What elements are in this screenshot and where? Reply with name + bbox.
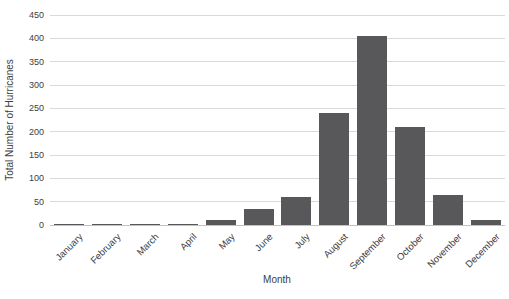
bar-december	[471, 220, 501, 225]
gridline-350	[50, 61, 505, 62]
x-axis-label-april: April	[177, 231, 198, 252]
x-axis-label-june: June	[252, 231, 274, 253]
y-axis-title: Total Number of Hurricanes	[4, 59, 15, 181]
bar-march	[130, 224, 160, 225]
x-axis-label-september: September	[347, 231, 388, 272]
bar-august	[319, 113, 349, 225]
x-axis-label-february: February	[88, 231, 123, 266]
y-axis-tick-label-450: 450	[0, 10, 44, 20]
x-axis-label-november: November	[425, 231, 464, 270]
gridline-450	[50, 15, 505, 16]
bar-november	[433, 195, 463, 225]
x-axis-title: Month	[263, 274, 291, 285]
y-axis-tick-label-0: 0	[0, 220, 44, 230]
plot-area	[50, 15, 505, 225]
y-axis-tick-label-50: 50	[0, 197, 44, 207]
x-axis-label-december: December	[463, 231, 502, 270]
bar-april	[168, 224, 198, 225]
x-axis-label-august: August	[321, 231, 350, 260]
hurricanes-by-month-bar-chart: Total Number of Hurricanes Month 0501001…	[0, 0, 509, 299]
gridline-400	[50, 38, 505, 39]
bar-october	[395, 127, 425, 225]
bar-may	[206, 220, 236, 225]
gridline-300	[50, 85, 505, 86]
x-axis-label-january: January	[53, 231, 85, 263]
bar-january	[54, 224, 84, 225]
bar-september	[357, 36, 387, 225]
bar-june	[244, 209, 274, 225]
gridline-100	[50, 178, 505, 179]
y-axis-tick-label-100: 100	[0, 173, 44, 183]
bar-july	[281, 197, 311, 225]
x-axis-label-october: October	[394, 231, 426, 263]
gridline-150	[50, 155, 505, 156]
y-axis-tick-label-350: 350	[0, 57, 44, 67]
gridline-250	[50, 108, 505, 109]
x-axis-label-may: May	[216, 231, 236, 251]
y-axis-tick-label-150: 150	[0, 150, 44, 160]
gridline-200	[50, 131, 505, 132]
y-axis-tick-label-200: 200	[0, 127, 44, 137]
x-axis-label-july: July	[292, 231, 312, 251]
y-axis-tick-label-250: 250	[0, 103, 44, 113]
bar-february	[92, 224, 122, 225]
y-axis-tick-label-300: 300	[0, 80, 44, 90]
y-axis-tick-label-400: 400	[0, 33, 44, 43]
x-axis-label-march: March	[134, 231, 160, 257]
